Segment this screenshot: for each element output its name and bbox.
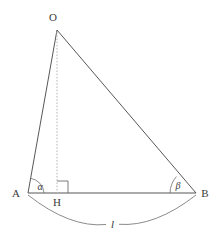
vertex-label-o: O — [49, 11, 57, 23]
vertex-label-b: B — [201, 187, 208, 199]
length-label-l: l — [111, 218, 114, 230]
segment-ob — [57, 30, 196, 193]
length-arc-right — [119, 195, 196, 225]
vertex-label-h: H — [53, 196, 61, 208]
length-arc-left — [28, 195, 106, 225]
geometry-canvas: O A B H α β l — [0, 0, 221, 236]
angle-label-beta: β — [175, 180, 181, 191]
geometry-figure: O A B H α β l — [0, 0, 221, 236]
right-angle-marker — [57, 181, 68, 193]
angle-label-alpha: α — [37, 181, 43, 192]
vertex-label-a: A — [12, 187, 20, 199]
segment-oa — [28, 30, 57, 193]
